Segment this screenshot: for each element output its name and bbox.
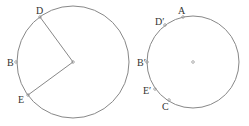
circle-diagram: DBEAD′B′E′C xyxy=(0,0,249,126)
point-Bp-label: B′ xyxy=(137,57,146,68)
point-B-marker xyxy=(15,61,18,64)
point-B-label: B xyxy=(7,57,14,68)
point-D-label: D xyxy=(36,5,43,16)
right-circle-group xyxy=(147,16,239,108)
radius-to-D xyxy=(40,17,73,62)
point-Dp-label: D′ xyxy=(155,16,164,27)
labeled-points: DBEAD′B′E′C xyxy=(7,5,186,112)
point-Ep-label: E′ xyxy=(143,85,151,96)
right-circle xyxy=(147,16,239,108)
point-A-label: A xyxy=(178,5,186,16)
point-E-label: E xyxy=(18,94,24,105)
point-Ep-marker xyxy=(154,88,157,91)
left-circle-group xyxy=(17,6,129,118)
radius-to-E xyxy=(28,62,73,95)
right-center-point xyxy=(192,61,195,64)
point-C-label: C xyxy=(162,101,169,112)
